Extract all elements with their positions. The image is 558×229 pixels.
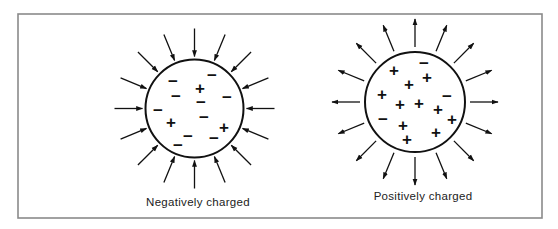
- field-arrow-icon: [356, 141, 376, 161]
- negative-charge-icon: −: [209, 129, 219, 148]
- positive-charge-icon: +: [431, 123, 441, 142]
- negative-charge-icon: −: [207, 66, 217, 85]
- positive-charge-icon: +: [402, 130, 412, 149]
- positive-charge-icon: +: [377, 85, 387, 104]
- field-arrow-icon: [231, 145, 251, 165]
- positive-charge-icon: +: [447, 110, 457, 129]
- field-arrow-icon: [466, 123, 492, 134]
- field-arrow-icon: [383, 25, 394, 51]
- field-arrow-icon: [383, 153, 394, 179]
- particle-positive: −++++−+++−++++Positively charged: [332, 19, 498, 202]
- field-arrow-icon: [138, 145, 158, 165]
- field-arrow-icon: [214, 157, 225, 183]
- particle-negative: −−+−−−−−++−−−Negatively charged: [115, 29, 275, 209]
- negative-charge-icon: −: [173, 136, 183, 155]
- positive-charge-icon: +: [422, 68, 432, 87]
- particle-label-positive: Positively charged: [374, 190, 473, 202]
- field-arrow-icon: [231, 52, 251, 72]
- field-arrow-icon: [454, 141, 474, 161]
- negative-charge-icon: −: [153, 101, 163, 120]
- negative-charge-icon: −: [183, 127, 193, 146]
- field-arrow-icon: [121, 78, 147, 89]
- particles-group: −−+−−−−−++−−−Negatively charged−++++−+++…: [115, 19, 499, 208]
- field-arrow-icon: [138, 52, 158, 72]
- positive-charge-icon: +: [414, 94, 424, 113]
- field-arrow-icon: [356, 43, 376, 63]
- field-arrow-icon: [436, 153, 447, 179]
- field-arrow-icon: [214, 35, 225, 61]
- positive-charge-icon: +: [404, 75, 414, 94]
- field-arrow-icon: [466, 70, 492, 81]
- positive-charge-icon: +: [395, 95, 405, 114]
- negative-charge-icon: −: [171, 87, 181, 106]
- negative-charge-icon: −: [199, 108, 209, 127]
- charged-particles-diagram: −−+−−−−−++−−−Negatively charged−++++−+++…: [0, 0, 558, 229]
- field-arrow-icon: [121, 128, 147, 139]
- field-arrow-icon: [243, 128, 269, 139]
- field-arrow-icon: [243, 78, 269, 89]
- field-arrow-icon: [164, 157, 175, 183]
- negative-charge-icon: −: [442, 87, 452, 106]
- negative-charge-icon: −: [222, 88, 232, 107]
- field-arrow-icon: [164, 35, 175, 61]
- negative-charge-icon: −: [378, 110, 388, 129]
- field-arrow-icon: [338, 70, 364, 81]
- positive-charge-icon: +: [166, 113, 176, 132]
- positive-charge-icon: +: [219, 118, 229, 137]
- particle-label-negative: Negatively charged: [146, 196, 250, 208]
- positive-charge-icon: +: [389, 61, 399, 80]
- field-arrow-icon: [436, 25, 447, 51]
- field-arrow-icon: [454, 43, 474, 63]
- positive-charge-icon: +: [433, 100, 443, 119]
- field-arrow-icon: [338, 123, 364, 134]
